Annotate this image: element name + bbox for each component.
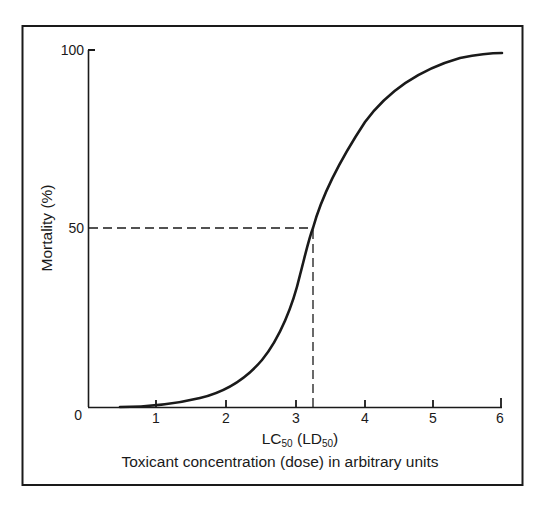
x-axis: 1 2 3 4 5 6 LC50 (LD50) Toxicant concent… <box>88 398 504 470</box>
dose-response-chart: 100 50 0 Mortality (%) 1 2 3 4 5 6 LC50 … <box>0 0 545 511</box>
y-axis-title: Mortality (%) <box>38 185 55 272</box>
lc50-label: LC50 (LD50) <box>262 430 339 449</box>
y-axis: 100 50 0 Mortality (%) <box>38 42 95 423</box>
y-tick-label-50: 50 <box>68 220 84 236</box>
x-tick-label-3: 3 <box>292 410 300 426</box>
x-tick-label-6: 6 <box>496 410 504 426</box>
x-tick-label-1: 1 <box>152 410 160 426</box>
figure-frame <box>23 26 523 485</box>
dose-response-curve <box>120 53 502 407</box>
x-tick-label-5: 5 <box>429 410 437 426</box>
y-tick-label-0: 0 <box>74 407 82 423</box>
x-tick-label-2: 2 <box>222 410 230 426</box>
x-tick-label-4: 4 <box>361 410 369 426</box>
x-axis-title: Toxicant concentration (dose) in arbitra… <box>121 453 438 470</box>
y-tick-label-100: 100 <box>61 42 85 58</box>
